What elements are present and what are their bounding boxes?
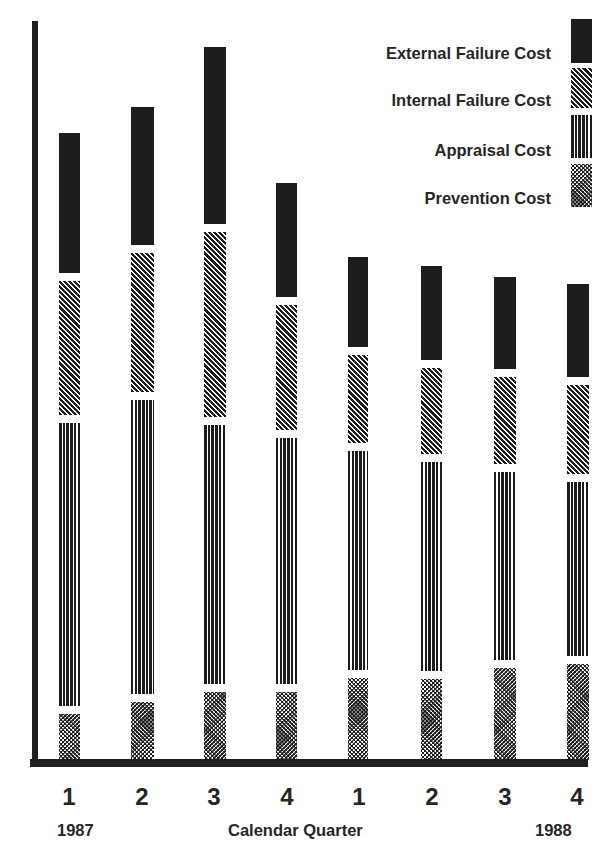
year-label-start: 1987 [57,821,94,840]
x-tick-label: 2 [122,783,162,811]
bar-segment-internal-failure [59,281,80,415]
legend-label-internal: Internal Failure Cost [391,91,551,110]
bar-segment-appraisal [59,423,80,706]
bar-segment-external-failure [276,183,297,297]
bar-segment-external-failure [131,107,154,245]
bar-segment-appraisal [567,482,589,656]
bar-segment-prevention [421,679,442,760]
legend-label-prevention: Prevention Cost [424,189,551,208]
bar-segment-external-failure [59,133,80,273]
bar-segment-prevention [204,692,226,760]
bar-segment-external-failure [204,47,226,224]
bar-segment-prevention [348,678,368,760]
x-tick-label: 3 [194,783,234,811]
bar-segment-prevention [59,714,80,760]
legend-swatch-appraisal [571,115,592,158]
bar-segment-internal-failure [276,305,297,430]
legend-label-appraisal: Appraisal Cost [435,141,551,160]
bar-segment-prevention [131,702,154,760]
bar-segment-appraisal [204,425,226,684]
x-tick-label: 2 [412,783,452,811]
bar-segment-appraisal [348,451,368,670]
bar-segment-internal-failure [421,368,442,454]
legend-swatch-internal [571,68,592,108]
legend-label-external: External Failure Cost [386,44,551,63]
bar-segment-internal-failure [494,377,516,464]
bar-segment-appraisal [131,400,154,694]
bar-segment-prevention [494,668,516,760]
year-label-end: 1988 [535,821,572,840]
bar-segment-internal-failure [567,385,589,474]
bar-segment-internal-failure [131,253,154,392]
x-tick-label: 1 [339,783,379,811]
bar-segment-external-failure [494,277,516,369]
bar-segment-appraisal [421,462,442,671]
bar-segment-prevention [276,692,297,760]
bar-segment-internal-failure [348,355,368,443]
x-tick-label: 3 [485,783,525,811]
bar-segment-appraisal [276,438,297,684]
legend-swatch-external [571,19,592,63]
x-axis-line [30,759,588,767]
x-tick-label: 4 [267,783,307,811]
x-tick-label: 1 [49,783,89,811]
bar-segment-appraisal [494,472,516,660]
bar-segment-prevention [567,664,589,760]
bar-segment-external-failure [421,266,442,360]
legend-swatch-prevention [571,164,592,207]
x-tick-label: 4 [557,783,597,811]
stacked-bar-chart: External Failure Cost Internal Failure C… [0,0,608,862]
x-axis-title: Calendar Quarter [228,821,363,840]
bar-segment-external-failure [567,284,589,377]
bar-segment-internal-failure [204,232,226,417]
y-axis-line [32,21,38,767]
bar-segment-external-failure [348,257,368,347]
